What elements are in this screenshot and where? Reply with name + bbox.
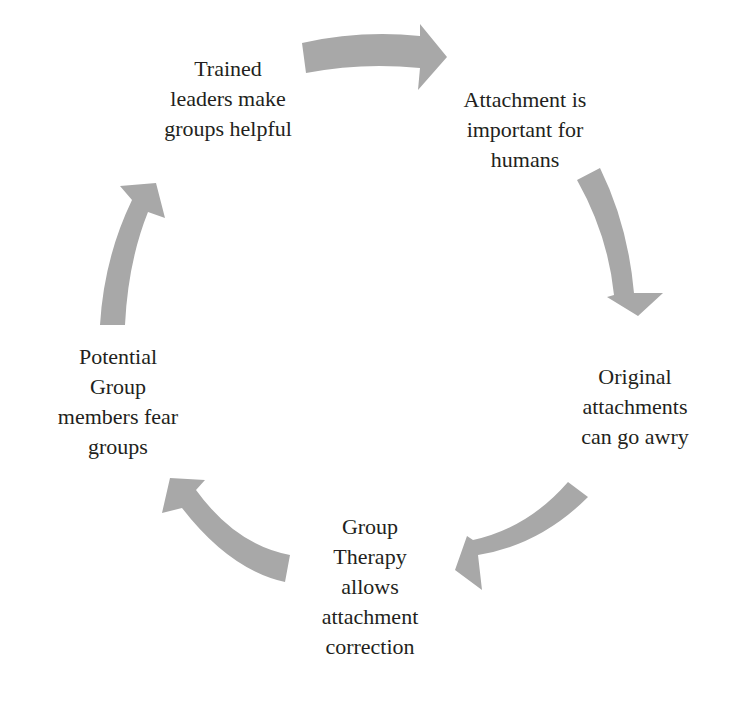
node-line: groups helpful (148, 114, 308, 144)
node-line: Therapy (305, 542, 435, 572)
node-trained-leaders: Trained leaders make groups helpful (148, 54, 308, 144)
node-line: Attachment is (445, 85, 605, 115)
node-line: important for (445, 115, 605, 145)
node-line: groups (38, 432, 198, 462)
node-line: correction (305, 632, 435, 662)
node-line: attachments (560, 392, 710, 422)
node-line: Group (38, 372, 198, 402)
arrow-bottom-right-icon (455, 482, 588, 590)
node-line: Group (305, 512, 435, 542)
node-original-attachments: Original attachments can go awry (560, 362, 710, 452)
node-line: members fear (38, 402, 198, 432)
node-potential-members: Potential Group members fear groups (38, 342, 198, 462)
node-line: Potential (38, 342, 198, 372)
arrow-bottom-left-icon (162, 478, 290, 582)
arrow-top-icon (302, 24, 447, 90)
node-group-therapy: Group Therapy allows attachment correcti… (305, 512, 435, 662)
node-line: Original (560, 362, 710, 392)
node-line: leaders make (148, 84, 308, 114)
node-line: attachment (305, 602, 435, 632)
node-line: allows (305, 572, 435, 602)
arrow-left-icon (100, 183, 165, 325)
node-line: can go awry (560, 422, 710, 452)
node-line: Trained (148, 54, 308, 84)
node-line: humans (445, 145, 605, 175)
node-attachment-important: Attachment is important for humans (445, 85, 605, 175)
arrow-right-icon (577, 168, 663, 316)
